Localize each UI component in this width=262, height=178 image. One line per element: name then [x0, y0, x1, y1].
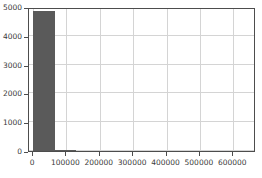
histogram-bar: [55, 150, 77, 151]
xtick-mark: [232, 152, 233, 156]
gridline-vertical: [100, 9, 101, 151]
xtick-mark: [65, 152, 66, 156]
gridline-horizontal: [29, 35, 254, 36]
gridline-horizontal: [29, 92, 254, 93]
gridline-horizontal: [29, 121, 254, 122]
gridline-vertical: [200, 9, 201, 151]
ytick-label: 4000: [0, 33, 22, 41]
ytick-label: 3000: [0, 62, 22, 70]
ytick-mark: [24, 152, 28, 153]
gridline-vertical: [233, 9, 234, 151]
gridline-vertical: [133, 9, 134, 151]
gridline-horizontal: [29, 64, 254, 65]
ytick-label: 1000: [0, 119, 22, 127]
xtick-mark: [132, 152, 133, 156]
plot-area: [28, 8, 255, 152]
gridline-vertical: [167, 9, 168, 151]
ytick-label: 5000: [0, 4, 22, 12]
xtick-mark: [32, 152, 33, 156]
ytick-label: 2000: [0, 90, 22, 98]
histogram-figure: 0 1000 2000 3000 4000 5000 0 100000 2000…: [0, 0, 262, 178]
xtick-mark: [99, 152, 100, 156]
xtick-mark: [199, 152, 200, 156]
histogram-bar: [33, 11, 55, 151]
xtick-label: 600000: [197, 158, 262, 167]
ytick-label: 0: [0, 148, 22, 156]
gridline-vertical: [66, 9, 67, 151]
xtick-mark: [166, 152, 167, 156]
